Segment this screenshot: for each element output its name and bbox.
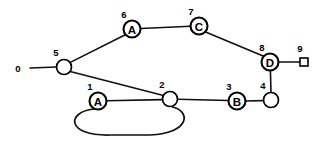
edge-3-2 <box>178 99 229 100</box>
node-9-square[interactable] <box>300 58 308 66</box>
node-1-index-label: 1 <box>87 81 93 92</box>
edge-5-6 <box>70 35 126 63</box>
node-4-index-label: 4 <box>260 80 266 91</box>
node-0[interactable]: 0 <box>15 63 20 74</box>
node-3[interactable]: B3 <box>226 81 245 110</box>
node-5-circle[interactable] <box>57 60 72 75</box>
node-5[interactable]: 5 <box>53 47 71 75</box>
node-2-index-label: 2 <box>159 79 164 90</box>
node-3-letter: B <box>233 96 241 108</box>
nodes-layer: 0A12B345A6C7D89 <box>15 6 308 110</box>
graph-svg: 0A12B345A6C7D89 <box>0 0 327 142</box>
edge-5-2 <box>70 72 163 96</box>
node-6-letter: A <box>128 24 136 36</box>
node-0-index-label: 0 <box>15 63 20 74</box>
node-4-circle[interactable] <box>264 93 279 108</box>
graph-diagram-canvas: 0A12B345A6C7D89 <box>0 0 327 142</box>
edge-0-5 <box>30 67 57 68</box>
edge-2-1 <box>107 100 163 101</box>
node-7-index-label: 7 <box>188 6 193 17</box>
node-5-index-label: 5 <box>53 47 59 58</box>
edge-6-7 <box>141 26 191 28</box>
edge-8-4 <box>270 71 271 93</box>
loop-edge-1-2 <box>75 107 184 135</box>
node-8-index-label: 8 <box>259 42 264 53</box>
node-6[interactable]: A6 <box>121 9 140 38</box>
node-2-circle[interactable] <box>163 92 178 107</box>
node-2[interactable]: 2 <box>159 79 177 107</box>
node-9-index-label: 9 <box>297 43 302 54</box>
node-1[interactable]: A1 <box>87 81 106 110</box>
node-7-letter: C <box>195 21 203 33</box>
node-4[interactable]: 4 <box>260 80 278 108</box>
node-6-index-label: 6 <box>121 9 126 20</box>
loop-edge-layer <box>75 107 184 135</box>
edge-7-8 <box>206 32 265 57</box>
node-3-index-label: 3 <box>226 81 231 92</box>
node-8-letter: D <box>266 57 274 69</box>
node-7[interactable]: C7 <box>188 6 207 35</box>
node-1-letter: A <box>94 96 102 108</box>
